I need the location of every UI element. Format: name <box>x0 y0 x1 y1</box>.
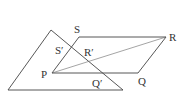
label-P: P <box>41 68 47 80</box>
label-R-prime: R′ <box>84 46 94 58</box>
label-S-prime: S′ <box>55 44 64 56</box>
triangle-plane <box>8 30 123 90</box>
label-Q: Q <box>138 75 146 87</box>
label-Q-prime: Q′ <box>92 77 102 89</box>
label-S: S <box>74 23 80 35</box>
label-R: R <box>169 31 177 43</box>
diagonal-PR <box>52 37 166 73</box>
geometry-diagram: S R S′ R′ P Q′ Q <box>0 0 180 99</box>
